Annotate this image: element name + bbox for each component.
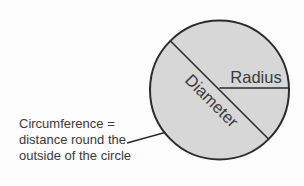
circle-diagram: Radius Diameter Circumference = distance… — [0, 0, 304, 186]
circumference-annotation: Circumference = distance round the outsi… — [19, 116, 131, 164]
circumference-annotation-line2: distance round the — [19, 132, 131, 148]
circumference-annotation-line1: Circumference = — [19, 116, 131, 132]
circumference-annotation-line3: outside of the circle — [19, 148, 131, 164]
circumference-leader-line — [127, 133, 165, 144]
radius-label: Radius — [230, 68, 281, 86]
